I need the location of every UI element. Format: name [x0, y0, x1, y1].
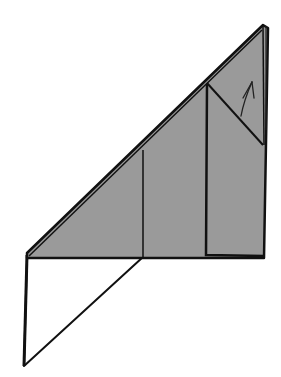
origami-diagram — [0, 0, 281, 377]
layer-edge-1 — [263, 26, 264, 145]
white-flap — [24, 257, 143, 366]
diagram-canvas — [0, 0, 281, 377]
